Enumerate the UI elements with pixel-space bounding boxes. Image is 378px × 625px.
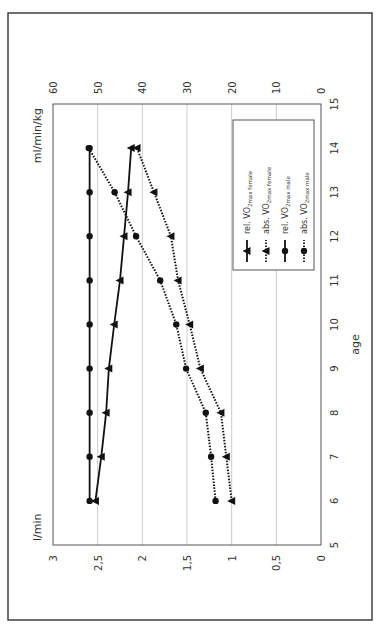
triangle-marker xyxy=(149,188,157,196)
right-tick-label: 60 xyxy=(48,81,59,94)
legend: rel. VO2max femaleabs. VO2max femalerel.… xyxy=(233,120,314,270)
x-tick-label: 11 xyxy=(329,274,340,287)
legend-label-subscript: 2max female xyxy=(266,166,272,203)
circle-marker xyxy=(86,277,92,283)
series-line xyxy=(137,148,232,501)
circle-marker xyxy=(86,189,92,195)
rotated-chart-group: 5678910111213141500,511,522,530102030405… xyxy=(31,81,362,571)
circle-marker xyxy=(86,410,92,416)
left-tick-label: 2,5 xyxy=(93,555,104,571)
left-tick-label: 1,5 xyxy=(182,555,193,571)
right-tick-label: 40 xyxy=(137,81,148,94)
legend-label-subscript: 2max male xyxy=(285,176,291,207)
series-abs-vo2max-male xyxy=(86,145,219,504)
left-tick-label: 1 xyxy=(227,555,238,561)
x-tick-label: 9 xyxy=(329,365,340,371)
circle-marker xyxy=(86,321,92,327)
right-tick-label: 30 xyxy=(182,81,193,94)
legend-label-subscript: 2max female xyxy=(247,170,253,207)
left-tick-label: 0 xyxy=(316,555,327,561)
circle-marker xyxy=(86,498,92,504)
series-abs-vo2max-female xyxy=(132,144,235,505)
legend-label-main: rel. VO xyxy=(243,207,252,234)
circle-marker xyxy=(86,365,92,371)
triangle-marker xyxy=(216,409,224,417)
chart-container: 5678910111213141500,511,522,530102030405… xyxy=(0,0,378,625)
left-axis-label: l/min xyxy=(31,513,44,541)
left-tick-label: 3 xyxy=(48,555,59,561)
circle-marker xyxy=(133,233,139,239)
circle-marker xyxy=(86,454,92,460)
legend-label-main: abs. VO xyxy=(262,203,271,234)
x-tick-label: 6 xyxy=(329,498,340,504)
left-tick-label: 2 xyxy=(137,555,148,561)
right-tick-label: 0 xyxy=(316,88,327,94)
circle-marker xyxy=(86,233,92,239)
right-tick-label: 50 xyxy=(93,81,104,94)
x-axis-label: age xyxy=(349,334,362,355)
right-tick-label: 20 xyxy=(227,81,238,94)
circle-marker xyxy=(208,454,214,460)
series-rel-vo2max-male xyxy=(86,145,92,504)
legend-label-subscript: 2max male xyxy=(304,172,310,203)
x-tick-label: 8 xyxy=(329,410,340,416)
left-tick-label: 0,5 xyxy=(271,555,282,571)
x-tick-label: 15 xyxy=(329,98,340,111)
legend-label-main: rel. VO xyxy=(281,207,290,234)
x-tick-label: 14 xyxy=(329,142,340,155)
circle-marker xyxy=(173,321,179,327)
circle-marker xyxy=(86,145,92,151)
x-tick-label: 12 xyxy=(329,230,340,243)
circle-marker xyxy=(282,248,288,254)
vo2max-chart: 5678910111213141500,511,522,530102030405… xyxy=(0,0,378,625)
x-tick-label: 7 xyxy=(329,454,340,460)
triangle-marker xyxy=(185,321,193,329)
legend-label-main: abs. VO xyxy=(300,203,309,234)
data-series xyxy=(86,144,236,505)
series-line xyxy=(89,148,216,501)
circle-marker xyxy=(111,189,117,195)
circle-marker xyxy=(157,277,163,283)
right-tick-label: 10 xyxy=(271,81,282,94)
legend-box xyxy=(233,120,314,270)
x-tick-label: 10 xyxy=(329,318,340,331)
x-tick-label: 5 xyxy=(329,542,340,548)
right-axis-label: ml/min/kg xyxy=(31,108,44,163)
circle-marker xyxy=(212,498,218,504)
circle-marker xyxy=(301,248,307,254)
x-tick-label: 13 xyxy=(329,186,340,199)
circle-marker xyxy=(183,365,189,371)
circle-marker xyxy=(203,410,209,416)
triangle-marker xyxy=(196,365,204,373)
triangle-marker xyxy=(222,453,230,461)
